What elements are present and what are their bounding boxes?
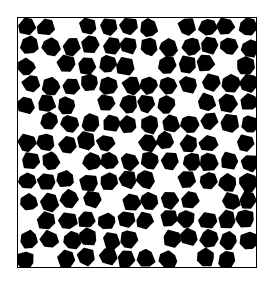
lace-texture-image bbox=[17, 17, 257, 268]
